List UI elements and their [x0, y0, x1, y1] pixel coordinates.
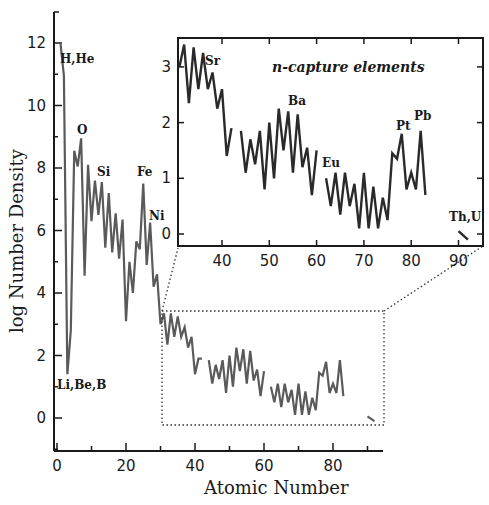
annot-ni: Ni	[149, 209, 165, 223]
annot-li-be-b: Li,Be,B	[57, 378, 106, 392]
x-tick-label: 80	[323, 457, 342, 475]
zoom-connector-left	[162, 248, 178, 311]
x-tick-label: 20	[116, 457, 135, 475]
annot-h-he: H,He	[60, 52, 95, 66]
inset-title: n-capture elements	[272, 59, 425, 75]
inset-x-tick-label: 70	[354, 252, 373, 270]
inset-x-tick-label: 80	[402, 252, 421, 270]
abundance-chart: 020406080024681012 Atomic Number log Num…	[0, 0, 489, 505]
x-tick-label: 40	[185, 457, 204, 475]
y-tick-label: 2	[36, 347, 46, 365]
y-tick-label: 10	[27, 97, 46, 115]
y-tick-label: 6	[36, 222, 46, 240]
annot-fe: Fe	[137, 165, 153, 179]
y-tick-label: 4	[36, 284, 46, 302]
inset-y-tick-label: 2	[161, 114, 171, 132]
y-tick-label: 0	[36, 409, 46, 427]
annot-pb: Pb	[414, 109, 431, 123]
y-axis-label: log Number Density	[6, 148, 27, 333]
inset-x-tick-label: 50	[260, 252, 279, 270]
inset-y-tick-label: 0	[161, 225, 171, 243]
inset-y-tick-label: 1	[161, 169, 171, 187]
x-tick-label: 0	[52, 457, 62, 475]
zoom-box	[162, 246, 483, 425]
annot-o: O	[77, 123, 87, 137]
annot-eu: Eu	[322, 156, 340, 170]
y-tick-label: 8	[36, 159, 46, 177]
annot-th-u: Th,U	[449, 210, 482, 224]
annot-pt: Pt	[396, 119, 411, 133]
x-axis-label: Atomic Number	[203, 477, 349, 498]
inset-x-tick-label: 40	[212, 252, 231, 270]
inset-y-tick-label: 3	[161, 58, 171, 76]
inset-x-tick-label: 90	[449, 252, 468, 270]
inset-x-tick-label: 60	[307, 252, 326, 270]
inset-plot: 4050607080900123 n-capture elements Sr B…	[161, 38, 483, 270]
x-tick-label: 60	[254, 457, 273, 475]
annot-ba: Ba	[288, 94, 306, 108]
annot-sr: Sr	[205, 54, 221, 68]
annot-si: Si	[97, 165, 111, 179]
zoom-connector-right	[384, 246, 483, 311]
y-tick-label: 12	[27, 34, 46, 52]
